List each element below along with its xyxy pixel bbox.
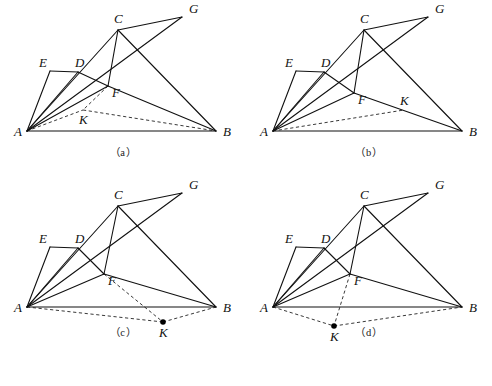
geometry-figure-root: ABCDEFGK（a）ABCDEFGK（b）ABCDEFGK（c）ABCDEFG…	[0, 0, 492, 386]
dashed-segment-KB	[163, 307, 216, 322]
vertex-label-E: E	[38, 55, 47, 70]
segment-ED	[296, 247, 324, 248]
segment-CB	[118, 206, 216, 307]
vertex-label-G: G	[189, 177, 199, 192]
vertex-label-A: A	[259, 124, 268, 139]
segment-DF	[78, 248, 104, 274]
segment-ED	[50, 71, 78, 72]
segment-AC	[27, 206, 118, 307]
vertex-label-A: A	[259, 300, 268, 315]
vertex-label-D: D	[74, 55, 85, 70]
vertex-label-B: B	[223, 124, 231, 139]
segment-FB	[350, 274, 462, 307]
segment-DF	[324, 248, 350, 274]
panel-caption-c: （c）	[0, 324, 246, 339]
panel-d-drawing: ABCDEFGK	[246, 180, 492, 340]
panel-caption-b: （b）	[246, 144, 492, 159]
panel-caption-d: （d）	[246, 324, 492, 339]
vertex-label-E: E	[284, 231, 293, 246]
vertex-label-D: D	[320, 55, 331, 70]
segment-AG	[27, 17, 182, 131]
segment-CF	[350, 206, 364, 274]
panel-a: ABCDEFGK（a）	[0, 0, 246, 186]
vertex-label-B: B	[469, 300, 477, 315]
vertex-label-F: F	[353, 273, 363, 288]
vertex-label-A: A	[13, 300, 22, 315]
dashed-segment-FK	[334, 274, 350, 326]
segment-ED	[296, 71, 324, 72]
panel-c: ABCDEFGK（c）	[0, 180, 246, 366]
clipped-footer-text	[0, 377, 492, 386]
segment-FB	[108, 86, 216, 131]
vertex-label-G: G	[435, 1, 445, 16]
vertex-label-K: K	[78, 112, 89, 127]
vertex-label-D: D	[74, 231, 85, 246]
vertex-label-C: C	[360, 11, 369, 26]
segment-AF	[27, 86, 108, 131]
segment-CF	[104, 206, 118, 274]
segment-CF	[108, 30, 118, 86]
panel-a-drawing: ABCDEFGK	[0, 0, 246, 160]
vertex-label-A: A	[13, 124, 22, 139]
dashed-segment-AK	[27, 307, 163, 322]
vertex-label-B: B	[223, 300, 231, 315]
segment-CB	[364, 206, 462, 307]
panel-c-drawing: ABCDEFGK	[0, 180, 246, 340]
segment-AG	[273, 17, 428, 131]
vertex-label-C: C	[114, 11, 123, 26]
panel-b-drawing: ABCDEFGK	[246, 0, 492, 160]
vertex-label-E: E	[284, 55, 293, 70]
segment-FB	[104, 274, 216, 307]
segment-ED	[50, 247, 78, 248]
vertex-label-F: F	[111, 85, 121, 100]
segment-AC	[273, 206, 364, 307]
dashed-segment-KB	[83, 110, 216, 131]
vertex-label-C: C	[360, 187, 369, 202]
vertex-label-F: F	[107, 273, 117, 288]
vertex-label-G: G	[435, 177, 445, 192]
segment-CB	[118, 30, 216, 131]
segment-AC	[273, 30, 364, 131]
vertex-label-C: C	[114, 187, 123, 202]
vertex-label-B: B	[469, 124, 477, 139]
segment-AC	[27, 30, 118, 131]
vertex-label-E: E	[38, 231, 47, 246]
dashed-segment-AK	[273, 110, 404, 131]
panel-b: ABCDEFGK（b）	[246, 0, 492, 186]
segment-CB	[364, 30, 462, 131]
vertex-label-K: K	[399, 93, 410, 108]
vertex-label-G: G	[189, 1, 199, 16]
vertex-label-D: D	[320, 231, 331, 246]
panel-caption-a: （a）	[0, 144, 246, 159]
vertex-label-F: F	[357, 92, 367, 107]
panel-d: ABCDEFGK（d）	[246, 180, 492, 366]
